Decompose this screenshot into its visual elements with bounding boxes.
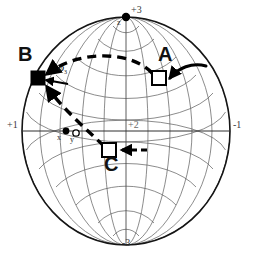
point-label-z: z [117, 19, 121, 27]
marker-a[interactable] [152, 71, 166, 85]
axis-label-minus-3: -3 [122, 238, 130, 248]
axis-label-plus-2: +2 [128, 120, 139, 130]
point-x [63, 128, 70, 135]
point-label-y: y [70, 136, 74, 144]
axis-label-plus-1: +1 [7, 120, 18, 130]
marker-label-a: A [158, 44, 172, 64]
sphere-diagram-figure: +3 -3 +1 -1 +2 z x y A B C φ3 [0, 0, 253, 261]
marker-label-c: C [104, 154, 118, 174]
angle-label-phi: φ3 [58, 62, 67, 75]
sphere-graphic [0, 0, 253, 261]
axis-label-plus-3: +3 [131, 5, 142, 15]
point-label-x: x [57, 134, 61, 142]
phi-subscript: 3 [64, 69, 67, 75]
axis-label-minus-1: -1 [233, 120, 241, 130]
marker-b[interactable] [31, 71, 45, 85]
point-z [122, 13, 130, 21]
marker-label-b: B [18, 44, 32, 64]
